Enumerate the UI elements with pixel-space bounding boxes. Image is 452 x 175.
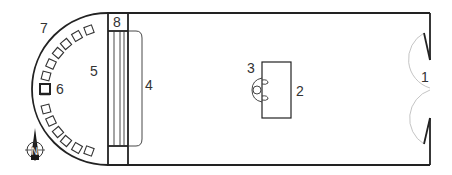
stage: 8 4 <box>108 13 153 165</box>
label-table: 2 <box>296 83 304 99</box>
compass-icon: N <box>25 128 45 161</box>
throne-icon <box>40 84 50 94</box>
label-stage: 4 <box>145 77 153 93</box>
chair-icon <box>252 78 268 102</box>
label-entrance: 1 <box>421 69 429 85</box>
label-apse-seating: 7 <box>40 20 48 36</box>
hall-walls <box>32 13 430 165</box>
entrance-doors: 1 <box>409 33 430 144</box>
label-stage-end: 8 <box>113 14 121 30</box>
label-chair: 3 <box>247 60 255 76</box>
label-apse-area: 5 <box>90 63 98 79</box>
label-throne: 6 <box>56 81 64 97</box>
table-with-chair: 3 2 <box>247 60 304 118</box>
compass-north-letter: N <box>31 146 38 157</box>
floor-plan: 1 8 4 3 2 <box>0 0 452 175</box>
